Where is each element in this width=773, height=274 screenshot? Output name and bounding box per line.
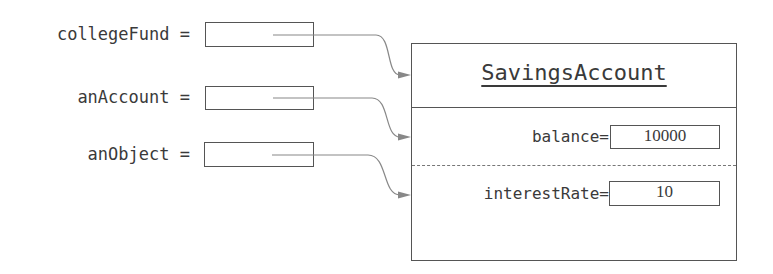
arrowhead-icon bbox=[398, 134, 411, 141]
arrow-anobject bbox=[272, 155, 404, 195]
arrow-collegefund bbox=[273, 35, 404, 75]
arrowhead-icon bbox=[398, 72, 411, 79]
arrow-anaccount bbox=[273, 98, 404, 137]
reference-arrows bbox=[0, 0, 773, 274]
arrowhead-icon bbox=[398, 192, 411, 199]
